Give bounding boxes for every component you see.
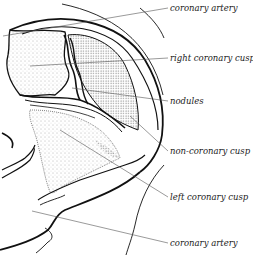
aortic-valve-diagram: coronary artery right coronary cusp nodu… (0, 0, 253, 255)
right-coronary-cusp-shape (7, 30, 69, 96)
label-coronary-artery-bottom: coronary artery (170, 239, 238, 248)
label-left-coronary-cusp: left coronary cusp (170, 193, 248, 202)
label-non-coronary-cusp: non-coronary cusp (170, 147, 250, 156)
label-nodules: nodules (170, 97, 204, 106)
label-coronary-artery-top: coronary artery (170, 4, 238, 13)
label-right-coronary-cusp: right coronary cusp (170, 54, 253, 63)
anatomy-drawing (0, 0, 253, 255)
